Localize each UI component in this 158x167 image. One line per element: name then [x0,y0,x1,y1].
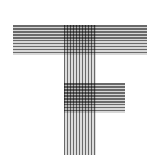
striped-letter-logo [0,0,158,167]
vertical-stem [64,25,96,155]
